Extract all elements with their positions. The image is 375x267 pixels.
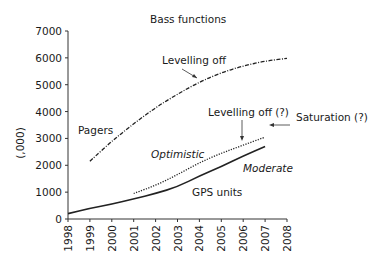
annotation-saturation: Saturation (?) bbox=[296, 111, 368, 123]
arrowhead-icon bbox=[269, 123, 274, 127]
y-tick-label: 4000 bbox=[35, 106, 62, 118]
x-tick-label: 2003 bbox=[172, 225, 184, 252]
y-tick-label: 0 bbox=[55, 213, 62, 225]
x-tick-label: 2002 bbox=[150, 225, 162, 252]
x-tick-label: 2007 bbox=[259, 225, 271, 252]
arrowhead-icon bbox=[192, 74, 197, 78]
y-tick-label: 1000 bbox=[35, 186, 62, 198]
x-tick-label: 2001 bbox=[128, 225, 140, 252]
x-tick-label: 1998 bbox=[62, 225, 74, 252]
y-tick-label: 7000 bbox=[35, 25, 62, 37]
annotation-levelling-off: Levelling off bbox=[162, 54, 227, 66]
y-tick-label: 6000 bbox=[35, 52, 62, 64]
x-tick-labels: 1998199920002001200220032004200520062007… bbox=[62, 225, 293, 252]
label-optimistic: Optimistic bbox=[151, 148, 205, 160]
label-moderate: Moderate bbox=[243, 162, 293, 174]
y-axis-label: (,000) bbox=[14, 127, 26, 159]
x-tick-label: 1999 bbox=[84, 225, 96, 252]
x-tick-label: 2006 bbox=[237, 225, 249, 252]
label-gps-units: GPS units bbox=[192, 186, 242, 198]
annotation-levelling-off-q: Levelling off (?) bbox=[208, 106, 289, 118]
arrowhead-icon bbox=[240, 136, 244, 141]
y-tick-label: 3000 bbox=[35, 132, 62, 144]
x-tick-label: 2008 bbox=[281, 225, 293, 252]
chart-title: Bass functions bbox=[150, 13, 226, 25]
x-tick-label: 2004 bbox=[193, 225, 205, 252]
x-tick-label: 2005 bbox=[215, 225, 227, 252]
bass-functions-chart: Bass functions (,000) 010002000300040005… bbox=[0, 0, 375, 267]
x-tick-label: 2000 bbox=[106, 225, 118, 252]
series-lines bbox=[68, 58, 287, 213]
y-tick-label: 5000 bbox=[35, 79, 62, 91]
label-pagers: Pagers bbox=[78, 124, 113, 136]
y-tick-labels: 01000200030004000500060007000 bbox=[35, 25, 62, 225]
y-tick-label: 2000 bbox=[35, 159, 62, 171]
